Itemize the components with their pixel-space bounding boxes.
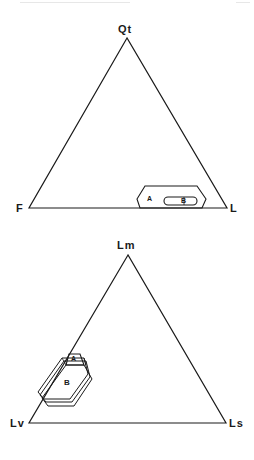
field-label-b-2: B [64,378,70,387]
field-label-a: A [147,195,152,202]
apex-label-ls: Ls [229,417,244,429]
field-label-b: B [181,197,186,204]
apex-label-lv: Lv [10,417,25,429]
field-label-a-2: A [71,355,76,362]
apex-label-l: L [230,202,238,214]
apex-label-qt: Qt [118,23,132,35]
ternary-diagrams [0,0,254,460]
apex-label-lm: Lm [117,239,136,251]
triangle-qt-f-l [29,38,227,208]
apex-label-f: F [16,202,24,214]
triangle-lm-lv-ls [29,255,226,423]
